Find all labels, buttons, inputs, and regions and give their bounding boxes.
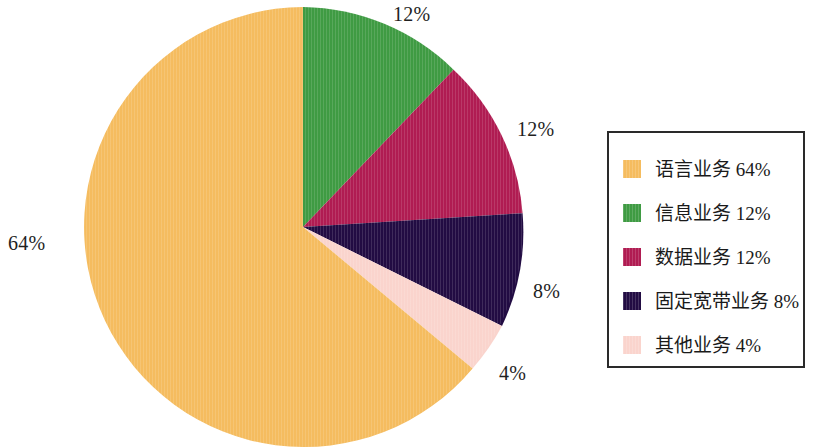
pie-label-voice-percent: 64%: [8, 233, 45, 253]
legend-label-broadband: 固定宽带业务 8%: [655, 292, 799, 311]
legend-swatch-information-icon: [623, 204, 641, 222]
legend-item-voice[interactable]: 语言业务 64%: [623, 147, 803, 191]
legend-swatch-broadband-icon: [623, 292, 641, 310]
legend-label-data: 数据业务 12%: [655, 248, 771, 267]
pie-chart-figure: 64% 12% 12% 8% 4% 语言业务 64% 信息业务 12% 数据业务…: [0, 0, 820, 447]
legend-item-information[interactable]: 信息业务 12%: [623, 191, 803, 235]
legend-item-data[interactable]: 数据业务 12%: [623, 235, 803, 279]
legend-swatch-data-icon: [623, 248, 641, 266]
chart-legend: 语言业务 64% 信息业务 12% 数据业务 12% 固定宽带业务 8% 其他业…: [607, 131, 805, 368]
legend-swatch-other-icon: [623, 336, 641, 354]
legend-label-other: 其他业务 4%: [655, 336, 761, 355]
legend-item-broadband[interactable]: 固定宽带业务 8%: [623, 279, 803, 323]
legend-swatch-voice-icon: [623, 160, 641, 178]
pie-label-data-percent: 12%: [517, 119, 554, 139]
legend-label-information: 信息业务 12%: [655, 204, 771, 223]
legend-item-other[interactable]: 其他业务 4%: [623, 323, 803, 367]
pie-label-broadband-percent: 8%: [533, 281, 560, 301]
pie-label-information-percent: 12%: [393, 4, 430, 24]
pie-label-other-percent: 4%: [499, 363, 526, 383]
legend-label-voice: 语言业务 64%: [655, 160, 771, 179]
